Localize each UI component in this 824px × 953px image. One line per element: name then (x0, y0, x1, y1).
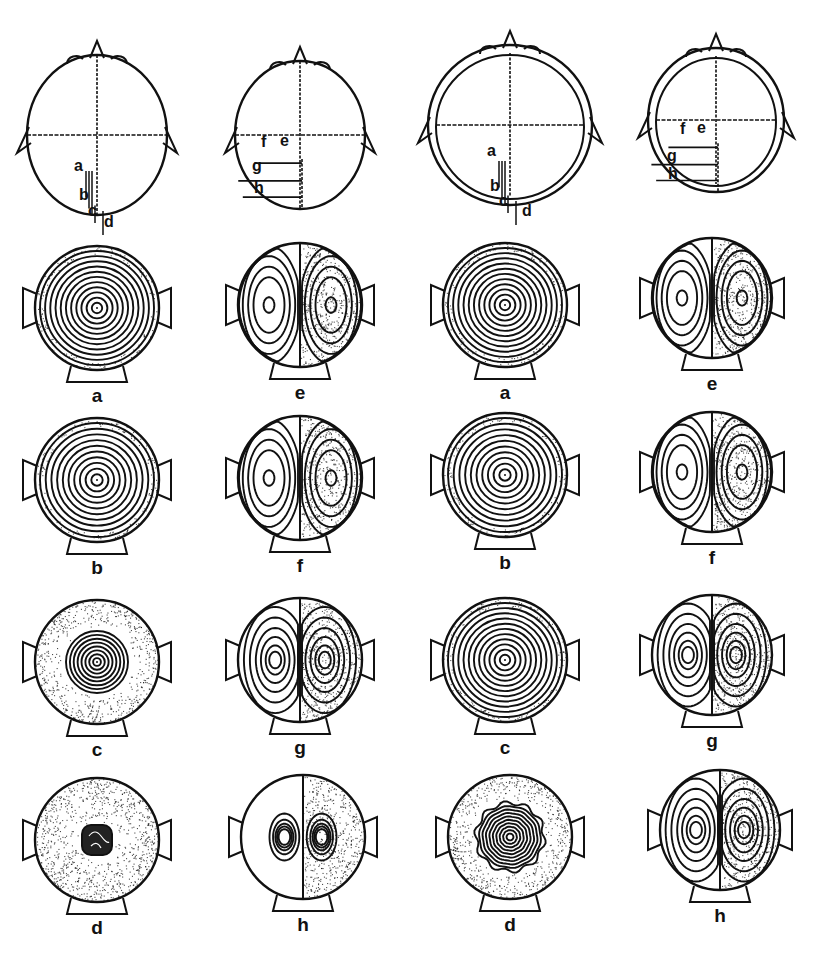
figure-drawing (0, 0, 824, 953)
map-label-g: g (706, 731, 718, 750)
map-label-f: f (297, 556, 303, 575)
schematic-label-h: h (254, 180, 264, 196)
contour-map-e-2 (226, 243, 374, 379)
map-label-g: g (294, 738, 306, 757)
contour-map-b-7 (431, 413, 579, 549)
map-label-h: h (297, 915, 309, 934)
head-schematic-4 (638, 34, 794, 192)
schematic-label-g: g (252, 158, 262, 174)
contour-map-g-12 (640, 595, 784, 727)
map-label-a: a (500, 383, 511, 402)
schematic-label-c: c (88, 203, 97, 219)
schematic-label-c: c (499, 193, 508, 209)
schematic-label-g: g (667, 148, 677, 164)
map-label-e: e (295, 383, 306, 402)
contour-map-e-4 (640, 238, 784, 370)
schematic-label-b: b (79, 187, 89, 203)
contour-map-a-1 (23, 246, 171, 382)
contour-map-b-5 (23, 418, 171, 554)
contour-map-h-16 (648, 770, 792, 902)
map-label-c: c (500, 738, 511, 757)
map-label-d: d (91, 918, 103, 937)
head-schematic-3 (418, 31, 602, 225)
map-label-a: a (92, 386, 103, 405)
map-label-b: b (91, 558, 103, 577)
schematic-label-h: h (668, 166, 678, 182)
contour-map-d-13 (23, 778, 171, 914)
schematic-label-d: d (522, 203, 532, 219)
contour-map-a-3 (431, 243, 579, 379)
map-label-e: e (707, 374, 718, 393)
schematic-label-f: f (261, 134, 266, 150)
schematic-label-a: a (487, 143, 496, 159)
figure-panel: abcdfeghabcdfeghaeaebfbfcgcgdhdh (0, 0, 824, 953)
contour-map-f-8 (640, 412, 784, 544)
contour-map-f-6 (226, 416, 374, 552)
contour-map-c-11 (431, 598, 579, 734)
map-label-d: d (504, 915, 516, 934)
contour-map-h-14 (229, 775, 377, 911)
map-label-b: b (499, 553, 511, 572)
map-label-h: h (714, 906, 726, 925)
head-schematic-2 (225, 47, 375, 209)
schematic-label-a: a (74, 158, 83, 174)
schematic-label-d: d (104, 214, 114, 230)
contour-map-g-10 (226, 598, 374, 734)
contour-map-c-9 (23, 600, 171, 736)
schematic-label-e: e (280, 133, 289, 149)
schematic-label-f: f (680, 121, 685, 137)
contour-map-d-15 (436, 775, 584, 911)
map-label-f: f (709, 548, 715, 567)
schematic-label-e: e (697, 120, 706, 136)
head-schematic-1 (17, 41, 177, 235)
map-label-c: c (92, 740, 103, 759)
